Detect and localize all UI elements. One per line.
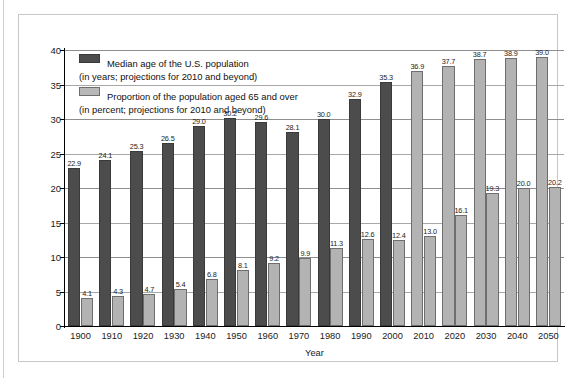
legend-label-median-age: Median age of the U.S. population (in ye… xyxy=(79,58,379,83)
bar-value-median-age-2020: 37.7 xyxy=(438,57,459,66)
legend-label-proportion-65: Proportion of the population aged 65 and… xyxy=(79,91,379,116)
bar-median-age-1950 xyxy=(224,118,236,326)
x-tick-label-2010: 2010 xyxy=(408,331,439,341)
x-tick-label-1950: 1950 xyxy=(221,331,252,341)
bar-value-median-age-1940: 29.0 xyxy=(188,117,209,126)
bar-proportion-65-1970 xyxy=(299,258,311,326)
bar-median-age-2000 xyxy=(380,82,392,326)
bar-proportion-65-1940 xyxy=(206,279,218,326)
bar-value-proportion-65-1920: 4.7 xyxy=(139,285,160,294)
bar-median-age-2020 xyxy=(442,66,454,326)
bar-value-median-age-1970: 28.1 xyxy=(282,123,303,132)
bar-proportion-65-1930 xyxy=(174,289,186,326)
bar-value-proportion-65-1970: 9.9 xyxy=(295,249,316,258)
bar-value-proportion-65-1960: 9.2 xyxy=(264,254,285,263)
bar-proportion-65-2050 xyxy=(549,187,561,326)
legend-swatch-median-age xyxy=(79,54,100,63)
x-tick-label-1930: 1930 xyxy=(159,331,190,341)
x-tick-label-1970: 1970 xyxy=(283,331,314,341)
bar-median-age-1900 xyxy=(68,168,80,326)
x-tick-label-2030: 2030 xyxy=(470,331,501,341)
x-tick-label-1940: 1940 xyxy=(190,331,221,341)
bar-value-median-age-2040: 38.9 xyxy=(500,49,521,58)
bar-value-proportion-65-1990: 12.6 xyxy=(357,230,378,239)
bar-proportion-65-2020 xyxy=(455,215,467,326)
bar-median-age-1930 xyxy=(162,143,174,326)
x-tick-label-2050: 2050 xyxy=(533,331,564,341)
chart-legend: Median age of the U.S. population (in ye… xyxy=(79,53,379,118)
x-tick-label-1910: 1910 xyxy=(96,331,127,341)
x-axis-title: Year xyxy=(65,348,564,358)
bar-value-proportion-65-1910: 4.3 xyxy=(108,287,129,296)
bar-median-age-1920 xyxy=(130,151,142,326)
bar-value-proportion-65-2020: 16.1 xyxy=(451,206,472,215)
bar-proportion-65-1920 xyxy=(143,294,155,326)
bar-proportion-65-1950 xyxy=(237,270,249,326)
x-tick-label-1900: 1900 xyxy=(65,331,96,341)
bar-median-age-2040 xyxy=(505,58,517,326)
bar-value-median-age-2030: 38.7 xyxy=(469,50,490,59)
legend-item-proportion-65: Proportion of the population aged 65 and… xyxy=(79,86,379,116)
legend-swatch-proportion-65 xyxy=(79,87,100,96)
bar-proportion-65-1990 xyxy=(362,239,374,326)
bar-proportion-65-1980 xyxy=(330,248,342,326)
x-axis-line xyxy=(64,326,565,327)
bar-proportion-65-1910 xyxy=(112,296,124,326)
bar-proportion-65-1900 xyxy=(81,298,93,326)
bar-value-proportion-65-1940: 6.8 xyxy=(201,270,222,279)
x-tick-label-2020: 2020 xyxy=(439,331,470,341)
bar-value-median-age-2050: 39.0 xyxy=(531,48,552,57)
bar-median-age-1960 xyxy=(255,122,267,326)
legend-label-proportion-65-line1: Proportion of the population aged 65 and… xyxy=(107,91,298,102)
legend-label-median-age-line1: Median age of the U.S. population xyxy=(107,58,249,69)
legend-item-median-age: Median age of the U.S. population (in ye… xyxy=(79,53,379,83)
legend-label-proportion-65-line2: (in percent; projections for 2010 and be… xyxy=(79,104,379,116)
bar-value-proportion-65-1930: 5.4 xyxy=(170,280,191,289)
bar-value-median-age-1900: 22.9 xyxy=(64,159,85,168)
page-edge-rule xyxy=(3,0,4,378)
chart-panel: 0510152025303540 22.94.124.14.325.34.726… xyxy=(18,14,558,362)
bar-proportion-65-2030 xyxy=(486,193,498,326)
bar-median-age-1990 xyxy=(349,99,361,326)
bar-value-proportion-65-2050: 20.2 xyxy=(544,178,565,187)
bar-median-age-1940 xyxy=(193,126,205,326)
bar-value-proportion-65-2000: 12.4 xyxy=(388,231,409,240)
bar-median-age-1970 xyxy=(286,132,298,326)
x-tick-label-2000: 2000 xyxy=(377,331,408,341)
bar-proportion-65-2040 xyxy=(518,188,530,326)
bar-value-median-age-1920: 25.3 xyxy=(126,142,147,151)
x-tick-label-2040: 2040 xyxy=(502,331,533,341)
legend-label-median-age-line2: (in years; projections for 2010 and beyo… xyxy=(79,71,379,83)
chart-figure: 0510152025303540 22.94.124.14.325.34.726… xyxy=(0,0,576,378)
bar-value-proportion-65-1950: 8.1 xyxy=(232,261,253,270)
bar-value-median-age-1930: 26.5 xyxy=(157,134,178,143)
bar-value-median-age-1910: 24.1 xyxy=(95,151,116,160)
bar-value-proportion-65-2040: 20.0 xyxy=(513,179,534,188)
bar-value-proportion-65-1900: 4.1 xyxy=(76,289,97,298)
bar-median-age-1910 xyxy=(99,160,111,326)
bar-value-proportion-65-2030: 19.3 xyxy=(482,184,503,193)
x-tick-label-1990: 1990 xyxy=(346,331,377,341)
x-tick-label-1920: 1920 xyxy=(127,331,158,341)
bar-proportion-65-1960 xyxy=(268,263,280,326)
bar-proportion-65-2000 xyxy=(393,240,405,326)
bar-value-proportion-65-2010: 13.0 xyxy=(419,227,440,236)
bar-value-median-age-2010: 36.9 xyxy=(407,62,428,71)
x-tick-label-1960: 1960 xyxy=(252,331,283,341)
bar-proportion-65-2010 xyxy=(424,236,436,326)
bar-value-proportion-65-1980: 11.3 xyxy=(326,239,347,248)
bar-median-age-2010 xyxy=(411,71,423,326)
x-tick-label-1980: 1980 xyxy=(315,331,346,341)
bar-median-age-2050 xyxy=(536,57,548,326)
bar-median-age-1980 xyxy=(318,119,330,326)
